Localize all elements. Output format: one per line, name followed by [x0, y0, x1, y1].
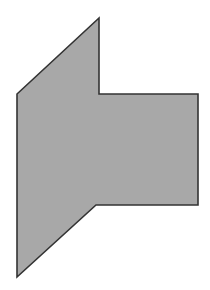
figure-canvas: Gray arrow-like polygon — [0, 0, 210, 290]
shape-svg — [0, 0, 210, 290]
